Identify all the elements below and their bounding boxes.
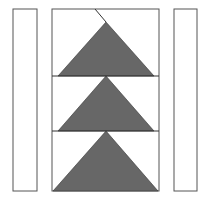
right-strip	[174, 9, 197, 191]
left-strip	[13, 9, 37, 191]
diagram-canvas	[0, 0, 207, 199]
